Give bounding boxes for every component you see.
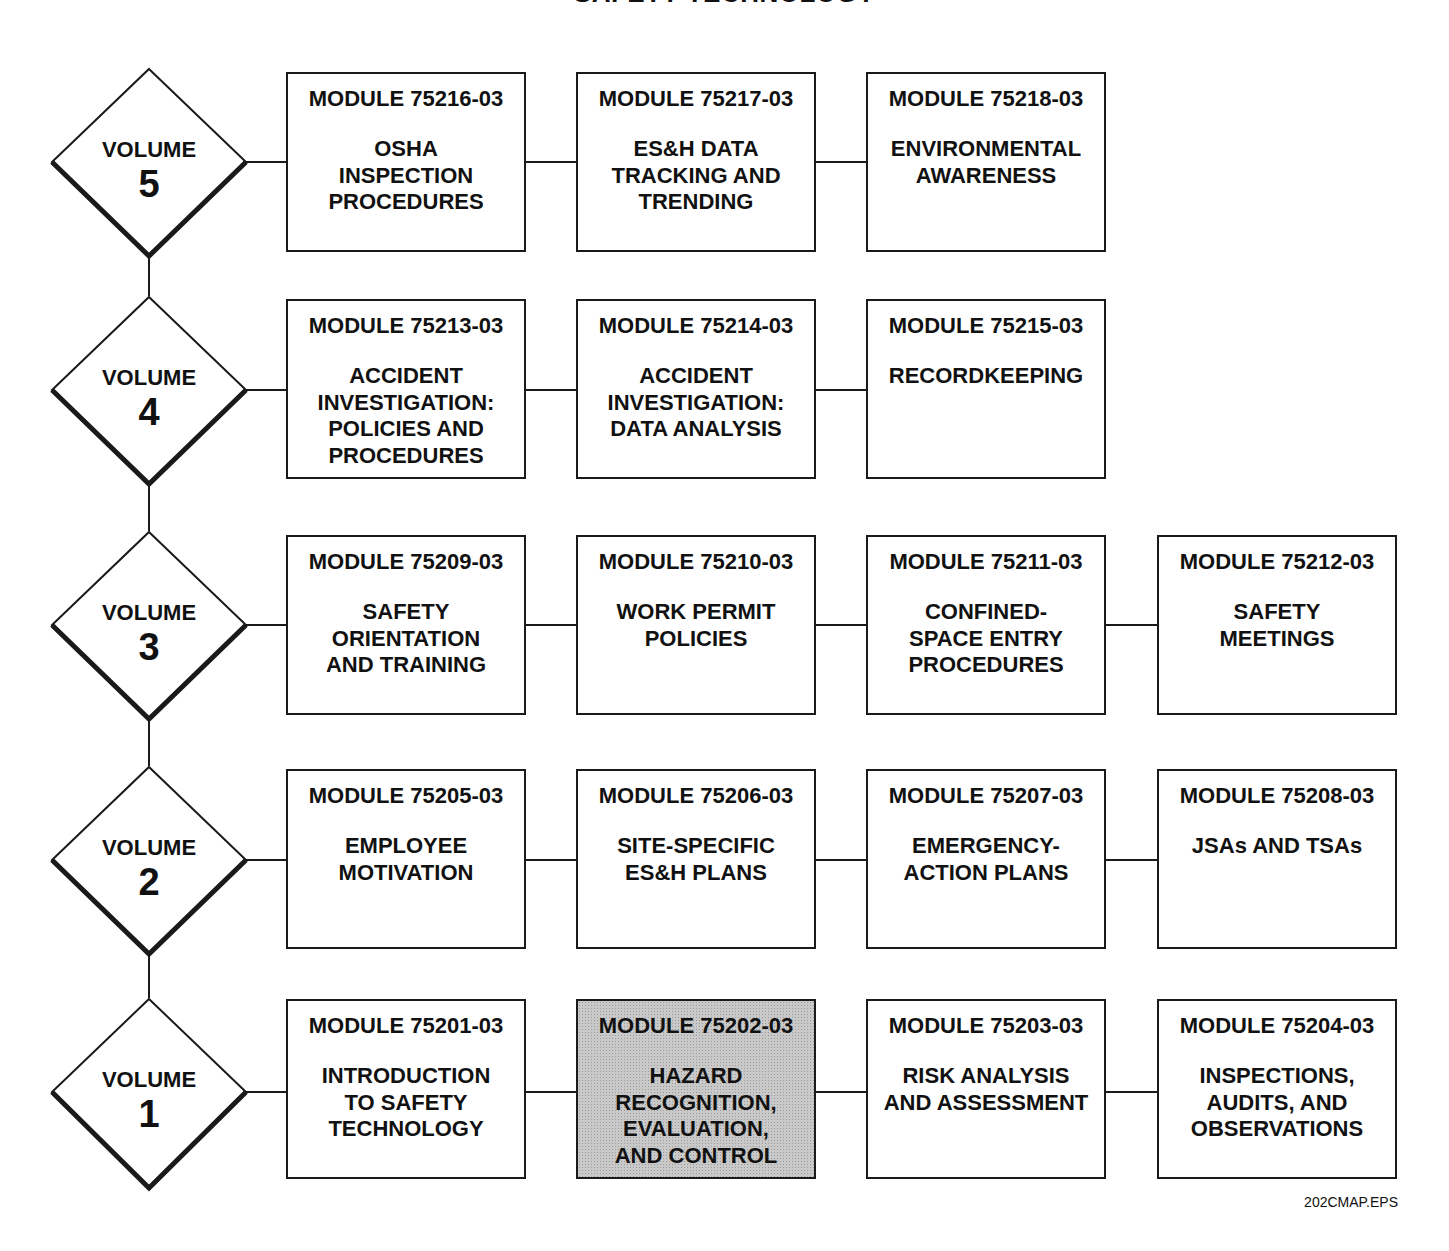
volume-2-node: VOLUME 2 (51, 765, 247, 955)
module-code: MODULE 75204-03 (1159, 1013, 1395, 1039)
module-75209-03: MODULE 75209-03 SAFETY ORIENTATION AND T… (286, 535, 526, 715)
module-code: MODULE 75203-03 (868, 1013, 1104, 1039)
module-name: EMPLOYEE MOTIVATION (288, 833, 524, 886)
module-name: SAFETY MEETINGS (1159, 599, 1395, 652)
module-75207-03: MODULE 75207-03 EMERGENCY- ACTION PLANS (866, 769, 1106, 949)
module-code: MODULE 75206-03 (578, 783, 814, 809)
module-name: CONFINED- SPACE ENTRY PROCEDURES (868, 599, 1104, 679)
module-name: RECORDKEEPING (868, 363, 1104, 390)
module-75204-03: MODULE 75204-03 INSPECTIONS, AUDITS, AND… (1157, 999, 1397, 1179)
volume-number: 5 (51, 163, 247, 206)
volume-number: 2 (51, 861, 247, 904)
module-name: ACCIDENT INVESTIGATION: POLICIES AND PRO… (288, 363, 524, 469)
module-code: MODULE 75209-03 (288, 549, 524, 575)
module-75205-03: MODULE 75205-03 EMPLOYEE MOTIVATION (286, 769, 526, 949)
volume-3-node: VOLUME 3 (51, 530, 247, 720)
module-name: JSAs AND TSAs (1159, 833, 1395, 860)
volume-4-node: VOLUME 4 (51, 295, 247, 485)
module-name: EMERGENCY- ACTION PLANS (868, 833, 1104, 886)
module-name: ACCIDENT INVESTIGATION: DATA ANALYSIS (578, 363, 814, 443)
module-75213-03: MODULE 75213-03 ACCIDENT INVESTIGATION: … (286, 299, 526, 479)
module-name: ENVIRONMENTAL AWARENESS (868, 136, 1104, 189)
module-75212-03: MODULE 75212-03 SAFETY MEETINGS (1157, 535, 1397, 715)
module-code: MODULE 75213-03 (288, 313, 524, 339)
volume-label: VOLUME (51, 600, 247, 626)
module-75214-03: MODULE 75214-03 ACCIDENT INVESTIGATION: … (576, 299, 816, 479)
module-code: MODULE 75208-03 (1159, 783, 1395, 809)
module-name: INSPECTIONS, AUDITS, AND OBSERVATIONS (1159, 1063, 1395, 1143)
module-75210-03: MODULE 75210-03 WORK PERMIT POLICIES (576, 535, 816, 715)
module-name: ES&H DATA TRACKING AND TRENDING (578, 136, 814, 216)
module-code: MODULE 75214-03 (578, 313, 814, 339)
module-code: MODULE 75217-03 (578, 86, 814, 112)
module-code: MODULE 75216-03 (288, 86, 524, 112)
module-name: INTRODUCTION TO SAFETY TECHNOLOGY (288, 1063, 524, 1143)
volume-label: VOLUME (51, 365, 247, 391)
volume-1-node: VOLUME 1 (51, 997, 247, 1187)
volume-label: VOLUME (51, 835, 247, 861)
module-name: WORK PERMIT POLICIES (578, 599, 814, 652)
module-code: MODULE 75205-03 (288, 783, 524, 809)
module-75206-03: MODULE 75206-03 SITE-SPECIFIC ES&H PLANS (576, 769, 816, 949)
module-75202-03-current: MODULE 75202-03 HAZARD RECOGNITION, EVAL… (576, 999, 816, 1179)
volume-label: VOLUME (51, 1067, 247, 1093)
volume-number: 1 (51, 1093, 247, 1136)
module-name: HAZARD RECOGNITION, EVALUATION, AND CONT… (578, 1063, 814, 1169)
module-code: MODULE 75212-03 (1159, 549, 1395, 575)
module-code: MODULE 75215-03 (868, 313, 1104, 339)
module-75201-03: MODULE 75201-03 INTRODUCTION TO SAFETY T… (286, 999, 526, 1179)
module-code: MODULE 75201-03 (288, 1013, 524, 1039)
module-75218-03: MODULE 75218-03 ENVIRONMENTAL AWARENESS (866, 72, 1106, 252)
module-code: MODULE 75207-03 (868, 783, 1104, 809)
module-75216-03: MODULE 75216-03 OSHA INSPECTION PROCEDUR… (286, 72, 526, 252)
module-75208-03: MODULE 75208-03 JSAs AND TSAs (1157, 769, 1397, 949)
module-name: RISK ANALYSIS AND ASSESSMENT (868, 1063, 1104, 1116)
module-name: OSHA INSPECTION PROCEDURES (288, 136, 524, 216)
module-name: SAFETY ORIENTATION AND TRAINING (288, 599, 524, 679)
module-75203-03: MODULE 75203-03 RISK ANALYSIS AND ASSESS… (866, 999, 1106, 1179)
file-label: 202CMAP.EPS (1304, 1194, 1398, 1210)
module-75211-03: MODULE 75211-03 CONFINED- SPACE ENTRY PR… (866, 535, 1106, 715)
module-name: SITE-SPECIFIC ES&H PLANS (578, 833, 814, 886)
volume-number: 3 (51, 626, 247, 669)
volume-5-node: VOLUME 5 (51, 67, 247, 257)
module-75217-03: MODULE 75217-03 ES&H DATA TRACKING AND T… (576, 72, 816, 252)
module-75215-03: MODULE 75215-03 RECORDKEEPING (866, 299, 1106, 479)
volume-label: VOLUME (51, 137, 247, 163)
module-code: MODULE 75210-03 (578, 549, 814, 575)
module-code: MODULE 75202-03 (578, 1013, 814, 1039)
module-code: MODULE 75218-03 (868, 86, 1104, 112)
module-code: MODULE 75211-03 (868, 549, 1104, 575)
volume-number: 4 (51, 391, 247, 434)
